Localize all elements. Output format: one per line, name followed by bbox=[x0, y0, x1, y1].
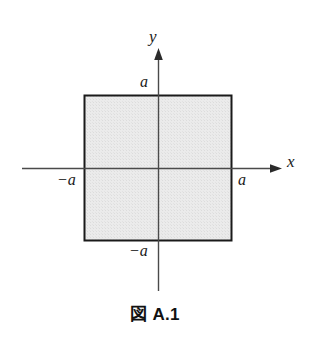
tick-label-neg-a-left: −a bbox=[57, 172, 76, 188]
y-axis-arrowhead bbox=[154, 48, 163, 60]
tick-label-a-top: a bbox=[140, 74, 148, 90]
figure-caption: 図 A.1 bbox=[0, 300, 310, 325]
x-axis-label: x bbox=[287, 153, 295, 170]
y-axis-label: y bbox=[149, 28, 157, 45]
figure-panel: y x a −a −a a 図 A.1 bbox=[0, 0, 310, 339]
tick-label-neg-a-bottom: −a bbox=[129, 243, 148, 259]
tick-label-a-right: a bbox=[238, 172, 246, 188]
x-axis-arrowhead bbox=[270, 164, 282, 173]
